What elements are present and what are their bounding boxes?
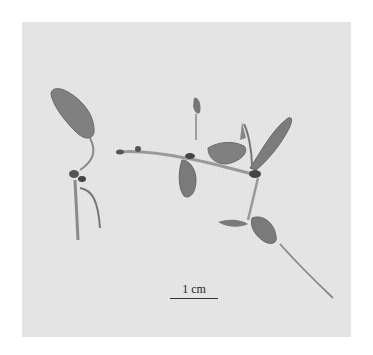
scale-bar: 1 cm bbox=[170, 283, 218, 299]
scale-bar-label: 1 cm bbox=[170, 283, 218, 295]
scale-bar-line bbox=[170, 298, 218, 299]
